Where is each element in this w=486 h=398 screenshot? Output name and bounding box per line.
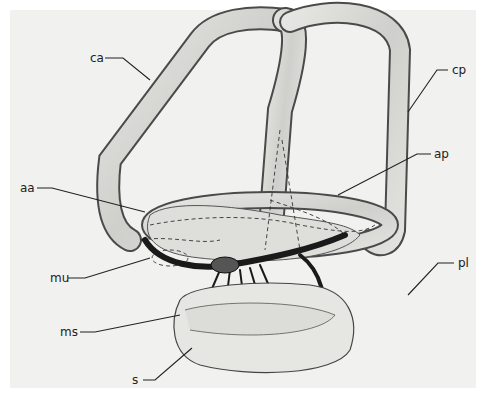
label-aa: aa [20, 182, 35, 194]
label-mu: mu [50, 272, 69, 284]
label-cp: cp [452, 64, 466, 76]
label-ca: ca [90, 52, 104, 64]
utricle [147, 206, 360, 261]
macula-utriculi [211, 257, 239, 273]
label-s: s [132, 374, 138, 386]
label-ms: ms [60, 326, 78, 338]
saccule [174, 283, 354, 372]
label-ap: ap [434, 148, 449, 160]
label-pl: pl [458, 257, 469, 269]
